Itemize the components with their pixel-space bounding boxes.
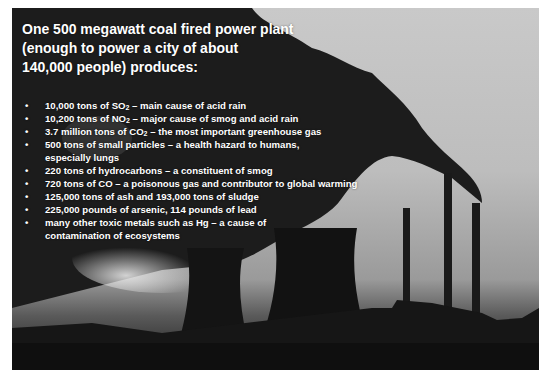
list-item: •3.7 million tons of CO2 – the most impo… (22, 125, 492, 138)
slide: One 500 megawatt coal fired power plant … (12, 8, 539, 370)
bullet-icon: • (25, 125, 28, 138)
slide-text: One 500 megawatt coal fired power plant … (22, 20, 492, 242)
bullet-icon: • (25, 99, 28, 112)
list-item: •125,000 tons of ash and 193,000 tons of… (22, 190, 492, 203)
list-item: •10,000 tons of SO2 – main cause of acid… (22, 99, 492, 112)
bullet-icon: • (25, 190, 28, 203)
list-item: •10,200 tons of NO2 – major cause of smo… (22, 112, 492, 125)
bullet-icon: • (25, 216, 28, 229)
bullet-icon: • (25, 177, 28, 190)
slide-title: One 500 megawatt coal fired power plant … (22, 20, 492, 77)
list-item: •225,000 pounds of arsenic, 114 pounds o… (22, 203, 492, 216)
bullet-icon: • (25, 203, 28, 216)
title-line: One 500 megawatt coal fired power plant (22, 20, 492, 39)
list-item: •720 tons of CO – a poisonous gas and co… (22, 177, 370, 190)
list-item: •500 tons of small particles – a health … (22, 138, 345, 164)
list-item: •220 tons of hydrocarbons – a constituen… (22, 164, 492, 177)
bullet-icon: • (25, 138, 28, 151)
bullet-icon: • (25, 112, 28, 125)
title-line: 140,000 people) produces: (22, 58, 492, 77)
emissions-list: •10,000 tons of SO2 – main cause of acid… (22, 99, 492, 242)
list-item: •many other toxic metals such as Hg – a … (22, 216, 305, 242)
title-line: (enough to power a city of about (22, 39, 492, 58)
bullet-icon: • (25, 164, 28, 177)
